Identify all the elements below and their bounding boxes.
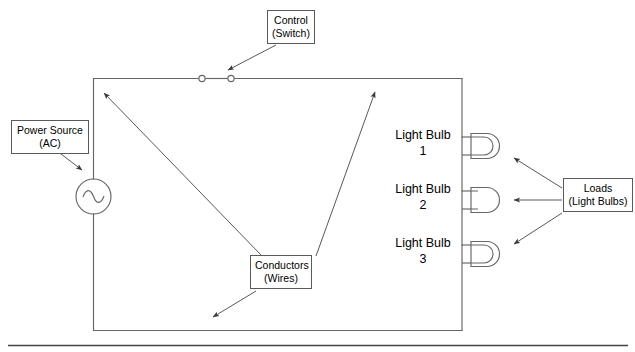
arrow-control-switch — [228, 45, 276, 70]
light-bulb-1-label: Light Bulb 1 — [386, 127, 460, 159]
arrow-conductors-topleft — [104, 93, 262, 256]
light-bulb-1-label-line2: 1 — [386, 143, 460, 159]
bulb-3-filament — [471, 245, 493, 263]
callout-control-line2: (Switch) — [272, 27, 310, 40]
light-bulb-3-symbol — [462, 242, 500, 267]
ac-source-icon — [76, 179, 111, 214]
switch-contact-right — [228, 75, 234, 81]
callout-loads[interactable]: Loads (Light Bulbs) — [563, 178, 633, 212]
light-bulb-3-label-line2: 3 — [386, 251, 460, 267]
arrow-conductors-topright — [316, 92, 375, 256]
callout-control-line1: Control — [272, 14, 310, 27]
callout-power-source[interactable]: Power Source (AC) — [11, 120, 89, 154]
arrow-loads-bulb-3 — [514, 213, 562, 244]
light-bulb-2-symbol — [462, 188, 500, 213]
switch-contact-left — [199, 75, 205, 81]
diagram-canvas: Power Source (AC) Control (Switch) Condu… — [0, 0, 635, 352]
circuit-diagram-svg — [0, 0, 635, 352]
ac-source-sine-wave — [83, 191, 104, 203]
callout-conductors-line2: (Wires) — [255, 272, 307, 285]
bulb-1-filament — [471, 137, 493, 155]
callout-control[interactable]: Control (Switch) — [267, 10, 315, 44]
callout-loads-line1: Loads — [568, 182, 628, 195]
light-bulb-2-label: Light Bulb 2 — [386, 181, 460, 213]
callout-conductors[interactable]: Conductors (Wires) — [250, 255, 312, 289]
arrow-loads-bulb-1 — [514, 158, 562, 188]
light-bulb-3-label-line1: Light Bulb — [386, 235, 460, 251]
light-bulb-2-label-line1: Light Bulb — [386, 181, 460, 197]
bulb-2-filament — [471, 191, 478, 209]
callout-conductors-line1: Conductors — [255, 259, 307, 272]
light-bulb-1-symbol — [462, 134, 500, 159]
callout-power-source-line1: Power Source — [16, 124, 84, 137]
callout-power-source-line2: (AC) — [16, 137, 84, 150]
light-bulb-2-label-line2: 2 — [386, 197, 460, 213]
arrow-conductors-bottomleft — [213, 291, 256, 317]
light-bulb-1-label-line1: Light Bulb — [386, 127, 460, 143]
callout-loads-line2: (Light Bulbs) — [568, 195, 628, 208]
light-bulb-3-label: Light Bulb 3 — [386, 235, 460, 267]
